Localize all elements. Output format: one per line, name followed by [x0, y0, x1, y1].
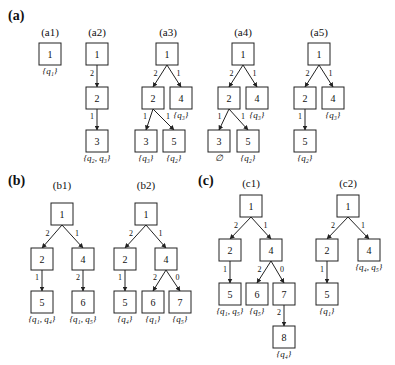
edge-arrow: [62, 225, 83, 248]
tree-title: (a4): [234, 26, 252, 39]
edge-weight-label: 2: [153, 273, 157, 282]
node-id-label: 4: [164, 254, 169, 265]
edge-weight-label: 1: [361, 221, 365, 230]
tree-a2: (a2)21123{q₂, q₃}: [84, 26, 111, 163]
tree-node: 5{q₁, q₄}: [29, 291, 56, 324]
node-id-label: 7: [178, 297, 183, 308]
query-set-label: {q₁}: [146, 314, 161, 324]
node-id-label: 1: [241, 49, 246, 60]
edge-weight-label: 2: [154, 69, 158, 78]
edge-weight-label: 1: [90, 112, 94, 121]
query-set-label: {q₁, q₄}: [29, 314, 56, 324]
query-set-label: {q₄, q₅}: [356, 262, 383, 272]
query-set-label: {q₅}: [250, 306, 265, 316]
node-id-label: 6: [151, 297, 156, 308]
tree-node: 5{q₁, q₅}: [217, 283, 244, 316]
tree-node: 1: [337, 195, 359, 217]
edge-weight-label: 1: [166, 112, 170, 121]
node-id-label: 5: [325, 289, 330, 300]
tree-c1: (c1)2112021245{q₁, q₅}6{q₅}78{q₄}: [217, 177, 295, 359]
tree-node: 1: [86, 43, 108, 65]
query-set-label: {q₂}: [298, 153, 313, 163]
tree-node: 1: [308, 43, 330, 65]
node-id-label: 1: [144, 209, 149, 220]
tree-node: 4: [72, 248, 94, 270]
node-id-label: 8: [282, 332, 287, 343]
tree-node: 8{q₄}: [273, 326, 295, 359]
tree-node: 2: [218, 87, 240, 109]
edge-weight-label: 2: [258, 265, 262, 274]
node-id-label: 2: [325, 245, 330, 256]
node-id-label: 1: [317, 49, 322, 60]
edge-arrow: [251, 217, 271, 239]
query-set-label: {q₄}: [118, 314, 133, 324]
edge-weight-label: 1: [218, 112, 222, 121]
node-id-label: 1: [249, 201, 254, 212]
edge-arrow: [229, 109, 248, 130]
edge-weight-label: 1: [320, 265, 324, 274]
node-id-label: 3: [144, 136, 149, 147]
query-set-label: {q₁}: [320, 306, 335, 316]
node-id-label: 4: [255, 93, 260, 104]
query-set-label: ∅: [215, 153, 224, 163]
edge-weight-label: 0: [280, 265, 284, 274]
edge-weight-label: 2: [129, 229, 133, 238]
node-id-label: 2: [228, 245, 233, 256]
tree-node: 2: [86, 87, 108, 109]
tree-node: 7: [273, 283, 295, 305]
edge-weight-label: 2: [76, 273, 80, 282]
node-id-label: 2: [151, 93, 156, 104]
node-id-label: 4: [179, 93, 184, 104]
figure-svg: (a)(b)(c) (a1)1{q₁}(a2)21123{q₂, q₃}(a3)…: [0, 0, 395, 365]
tree-node: 5{q₄}: [114, 291, 136, 324]
edge-weight-label: 1: [35, 273, 39, 282]
edge-weight-label: 1: [223, 265, 227, 274]
tree-node: 5{q₂}: [294, 130, 316, 163]
edge-weight-label: 1: [143, 112, 147, 121]
tree-node: 4{q₄, q₅}: [356, 239, 383, 272]
node-id-label: 5: [40, 297, 45, 308]
node-id-label: 4: [269, 245, 274, 256]
edge-weight-label: 2: [306, 69, 310, 78]
tree-a1: (a1)1{q₁}: [39, 26, 61, 76]
node-id-label: 1: [165, 49, 170, 60]
query-set-label: {q₃}: [174, 110, 189, 120]
edge-weight-label: 1: [253, 69, 257, 78]
tree-a5: (a5)211124{q₃}5{q₂}: [294, 26, 344, 163]
trees: (a1)1{q₁}(a2)21123{q₂, q₃}(a3)2111124{q₃…: [29, 26, 383, 359]
tree-node: 1: [156, 43, 178, 65]
node-id-label: 4: [331, 93, 336, 104]
edge-weight-label: 1: [159, 229, 163, 238]
tree-node: 6{q₅}: [246, 283, 268, 316]
edge-weight-label: 1: [329, 69, 333, 78]
edge-weight-label: 1: [241, 112, 245, 121]
node-id-label: 6: [81, 297, 86, 308]
edge-weight-label: 2: [277, 308, 281, 317]
node-id-label: 5: [172, 136, 177, 147]
tree-node: 2: [219, 239, 241, 261]
tree-node: 4{q₃}: [170, 87, 192, 120]
tree-node: 4{q₃}: [322, 87, 344, 120]
tree-a4: (a4)2111124{q₃}3∅5{q₂}: [208, 26, 268, 163]
node-id-label: 2: [123, 254, 128, 265]
tree-title: (c2): [339, 177, 357, 190]
edge-weight-label: 2: [331, 221, 335, 230]
edge-weight-label: 2: [230, 69, 234, 78]
panel-label-a: (a): [8, 8, 25, 24]
tree-node: 1{q₁}: [39, 43, 61, 76]
tree-node: 3{q₂, q₃}: [84, 130, 111, 163]
node-id-label: 2: [227, 93, 232, 104]
edge-arrow: [146, 225, 166, 248]
tree-node: 2: [31, 248, 53, 270]
tree-node: 2: [114, 248, 136, 270]
edge-weight-label: 1: [264, 221, 268, 230]
query-set-label: {q₄}: [277, 349, 292, 359]
tree-node: 2: [316, 239, 338, 261]
query-set-label: {q₁}: [43, 66, 58, 76]
tree-title: (a3): [159, 26, 177, 39]
node-id-label: 2: [303, 93, 308, 104]
edge-weight-label: 0: [176, 273, 180, 282]
edge-weight-label: 2: [90, 69, 94, 78]
query-set-label: {q₂}: [167, 153, 182, 163]
node-id-label: 3: [217, 136, 222, 147]
